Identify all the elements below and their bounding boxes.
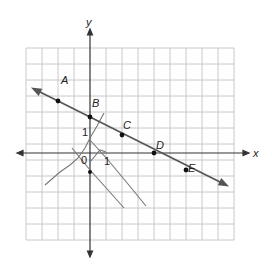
origin-label: 0 (81, 154, 87, 166)
axes (17, 29, 249, 257)
main-line-right-arrow-icon (219, 180, 227, 186)
x-unit-label: 1 (104, 155, 110, 167)
point-c (120, 133, 125, 138)
x-axis-right-arrow-icon (243, 151, 249, 156)
point-e-label: E (188, 162, 196, 174)
point-d-label: D (156, 139, 164, 151)
x-axis-label: x (252, 147, 259, 159)
point-a-label: A (60, 74, 68, 86)
coordinate-graph: A B C D E x y 0 1 1 (0, 0, 272, 268)
grid (26, 48, 234, 240)
y-unit-label: 1 (82, 126, 88, 138)
y-axis-down-arrow-icon (88, 251, 93, 257)
point-a (56, 99, 61, 104)
point-y-intercept-sketch (88, 170, 92, 174)
y-axis-up-arrow-icon (88, 29, 93, 35)
point-c-label: C (123, 119, 131, 131)
main-line-left-arrow-icon (33, 89, 41, 95)
y-axis-label: y (85, 16, 93, 28)
point-b (88, 115, 93, 120)
x-axis-left-arrow-icon (17, 151, 23, 156)
point-d (152, 151, 157, 156)
point-b-label: B (92, 97, 99, 109)
